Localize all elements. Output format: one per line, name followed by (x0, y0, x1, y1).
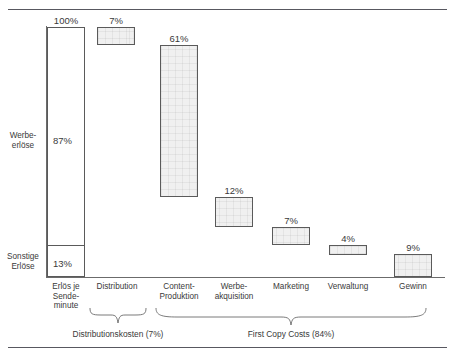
x-label-marketing: Marketing (266, 282, 316, 292)
bar-verwaltung[interactable] (329, 245, 367, 255)
bar-marketing[interactable] (272, 227, 310, 245)
x-label-content-produktion: Content- Produktion (153, 282, 205, 301)
value-label-erloes-je-sendeminute: 100% (47, 15, 85, 26)
bar-texture (161, 46, 197, 196)
x-label-distribution: Distribution (92, 282, 142, 292)
bar-gewinn[interactable] (394, 254, 432, 277)
y-label-sonstige-erloese: Sonstige Erlöse (1, 252, 45, 271)
bracket-label-first-copy-costs: First Copy Costs (84%) (221, 329, 361, 339)
value-label-content-produktion: 61% (160, 33, 198, 44)
x-label-verwaltung: Verwaltung (322, 282, 374, 292)
curly-brace-icon (89, 308, 147, 324)
bar-distribution[interactable] (97, 27, 135, 45)
curly-brace-icon (155, 308, 427, 326)
value-label-marketing: 7% (272, 215, 310, 226)
value-label-distribution: 7% (97, 15, 135, 26)
bar-erloes-je-sendeminute[interactable] (47, 27, 85, 277)
bar-texture (216, 198, 252, 226)
segment-value-werbeerloese: 87% (53, 135, 72, 146)
bar-werbe-akquisition[interactable] (215, 197, 253, 227)
x-label-werbe-akquisition: Werbe- akquisition (207, 282, 261, 301)
value-label-werbe-akquisition: 12% (215, 185, 253, 196)
segment-divider-werbeerloese-sonstige (48, 245, 84, 246)
bracket-distributionskosten (89, 308, 147, 324)
bracket-label-distributionskosten: Distributionskosten (7%) (48, 329, 188, 339)
value-label-verwaltung: 4% (329, 233, 367, 244)
bar-texture (273, 228, 309, 244)
bracket-first-copy-costs (155, 308, 427, 326)
value-label-gewinn: 9% (394, 242, 432, 253)
bar-texture (98, 28, 134, 44)
bar-content-produktion[interactable] (160, 45, 198, 197)
x-label-erloes-je-sendeminute: Erlös je Sende- minute (45, 282, 87, 311)
y-label-werbeerloese: Werbe- erlöse (1, 131, 45, 150)
x-axis-baseline (46, 277, 445, 278)
bar-texture (330, 246, 366, 254)
waterfall-chart-plot-area: 100% 87% 13% 7% 61% 12% 7% 4% (0, 0, 455, 360)
figure-container: 100% 87% 13% 7% 61% 12% 7% 4% (0, 0, 455, 360)
segment-value-sonstige-erloese: 13% (53, 258, 72, 269)
x-label-gewinn: Gewinn (389, 282, 437, 292)
bar-texture (395, 255, 431, 276)
